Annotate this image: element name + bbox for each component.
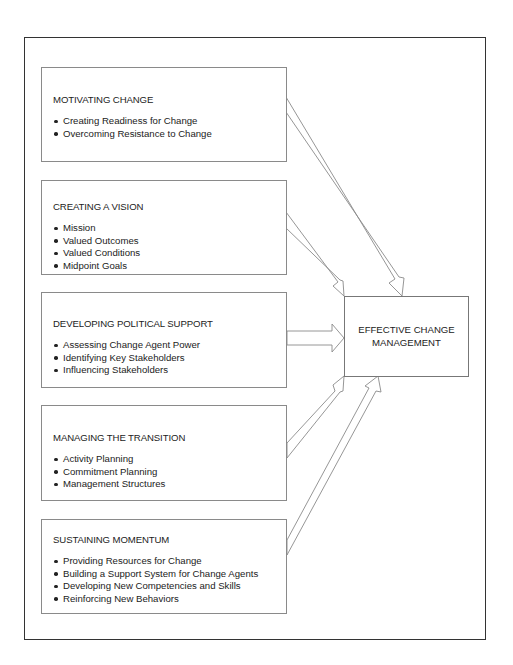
arrow-managing-transition	[287, 376, 344, 458]
bullet-icon	[54, 483, 58, 487]
box-title: MOTIVATING CHANGE	[53, 94, 286, 106]
box-creating-vision: CREATING A VISION Mission Valued Outcome…	[41, 180, 287, 275]
list-item: Developing New Competencies and Skills	[53, 580, 286, 593]
bullet-icon	[54, 132, 58, 136]
list-item: Management Structures	[53, 478, 286, 491]
bullet-icon	[54, 239, 58, 243]
bullet-icon	[54, 264, 58, 268]
list-item-text: Creating Readiness for Change	[63, 115, 197, 126]
list-item-text: Identifying Key Stakeholders	[63, 352, 185, 363]
bullet-list: Mission Valued Outcomes Valued Condition…	[53, 222, 286, 272]
list-item: Creating Readiness for Change	[53, 115, 286, 128]
list-item: Providing Resources for Change	[53, 555, 286, 568]
list-item-text: Providing Resources for Change	[63, 555, 202, 566]
bullet-icon	[54, 120, 58, 124]
list-item: Influencing Stakeholders	[53, 364, 286, 377]
list-item-text: Commitment Planning	[63, 466, 157, 477]
bullet-icon	[54, 227, 58, 231]
list-item: Activity Planning	[53, 453, 286, 466]
list-item-text: Valued Conditions	[63, 247, 140, 258]
list-item-text: Mission	[63, 222, 96, 233]
bullet-icon	[54, 252, 58, 256]
list-item: Building a Support System for Change Age…	[53, 568, 286, 581]
list-item: Valued Conditions	[53, 247, 286, 260]
list-item-text: Building a Support System for Change Age…	[63, 568, 258, 579]
list-item-text: Influencing Stakeholders	[63, 364, 168, 375]
bullet-icon	[54, 585, 58, 589]
target-box-effective-change-management: EFFECTIVE CHANGE MANAGEMENT	[344, 296, 469, 377]
list-item: Identifying Key Stakeholders	[53, 352, 286, 365]
bullet-icon	[54, 356, 58, 360]
bullet-icon	[54, 344, 58, 348]
box-title: DEVELOPING POLITICAL SUPPORT	[53, 318, 286, 330]
bullet-list: Activity Planning Commitment Planning Ma…	[53, 453, 286, 491]
box-title: MANAGING THE TRANSITION	[53, 432, 286, 444]
list-item-text: Assessing Change Agent Power	[63, 339, 200, 350]
list-item-text: Valued Outcomes	[63, 235, 139, 246]
list-item-text: Midpoint Goals	[63, 260, 127, 271]
list-item-text: Activity Planning	[63, 453, 133, 464]
box-title: CREATING A VISION	[53, 201, 286, 213]
list-item-text: Developing New Competencies and Skills	[63, 580, 241, 591]
bullet-list: Assessing Change Agent Power Identifying…	[53, 339, 286, 377]
list-item-text: Reinforcing New Behaviors	[63, 593, 179, 604]
bullet-list: Providing Resources for Change Building …	[53, 555, 286, 605]
box-managing-transition: MANAGING THE TRANSITION Activity Plannin…	[41, 405, 287, 501]
bullet-list: Creating Readiness for Change Overcoming…	[53, 115, 286, 140]
target-label-line1: EFFECTIVE CHANGE	[358, 324, 454, 337]
list-item: Reinforcing New Behaviors	[53, 593, 286, 606]
target-label-line2: MANAGEMENT	[372, 337, 441, 350]
list-item-text: Overcoming Resistance to Change	[63, 128, 212, 139]
arrow-motivating-change	[286, 97, 404, 296]
arrow-political-support	[287, 324, 344, 352]
bullet-icon	[54, 560, 58, 564]
box-political-support: DEVELOPING POLITICAL SUPPORT Assessing C…	[41, 292, 287, 388]
list-item: Overcoming Resistance to Change	[53, 128, 286, 141]
list-item: Valued Outcomes	[53, 235, 286, 248]
bullet-icon	[54, 470, 58, 474]
box-sustaining-momentum: SUSTAINING MOMENTUM Providing Resources …	[41, 519, 287, 614]
list-item: Mission	[53, 222, 286, 235]
box-title: SUSTAINING MOMENTUM	[53, 534, 286, 546]
bullet-icon	[54, 597, 58, 601]
box-motivating-change: MOTIVATING CHANGE Creating Readiness for…	[41, 67, 287, 162]
bullet-icon	[54, 369, 58, 373]
list-item: Commitment Planning	[53, 466, 286, 479]
bullet-icon	[54, 572, 58, 576]
list-item-text: Management Structures	[63, 478, 165, 489]
list-item: Assessing Change Agent Power	[53, 339, 286, 352]
list-item: Midpoint Goals	[53, 260, 286, 273]
arrow-creating-vision	[286, 212, 344, 296]
arrow-sustaining-momentum	[287, 376, 381, 555]
bullet-icon	[54, 458, 58, 462]
